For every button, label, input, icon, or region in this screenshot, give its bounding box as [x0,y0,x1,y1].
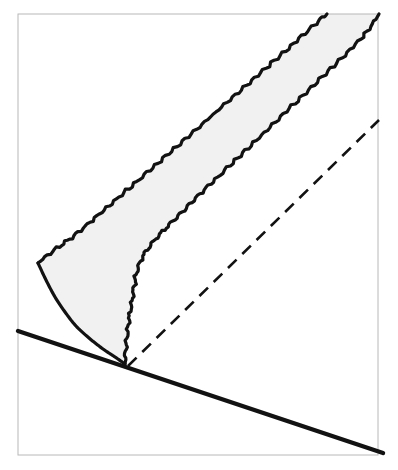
canvas-background [0,0,398,470]
figure-root [0,0,398,470]
line-diagram-svg [0,0,398,470]
